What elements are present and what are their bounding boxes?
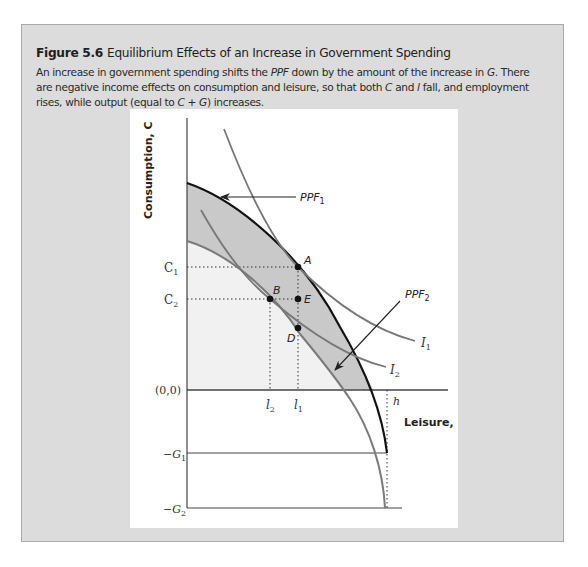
ppf1-label: PPF1 — [300, 191, 325, 206]
neg-g1-label: −G1 — [163, 448, 186, 463]
h-label: h — [393, 395, 400, 408]
figure-number: Figure 5.6 — [36, 46, 103, 60]
caption-part: and — [392, 81, 417, 93]
c1-label: C1 — [164, 261, 178, 277]
point-b-label: B — [273, 284, 281, 297]
chart: A B E D Consumption, C Leisure, l C1 C2 … — [130, 109, 458, 528]
caption-part: PPF — [271, 66, 289, 78]
i1-label: I1 — [420, 336, 431, 352]
figure-caption: An increase in government spending shift… — [36, 65, 546, 110]
point-e-label: E — [304, 293, 311, 306]
caption-part: ) increases. — [207, 96, 264, 108]
caption-part: An increase in government spending shift… — [36, 66, 271, 78]
point-a-label: A — [303, 254, 312, 267]
caption-part: G — [487, 66, 495, 78]
figure-card: Figure 5.6Equilibrium Effects of an Incr… — [21, 24, 564, 542]
figure-title: Figure 5.6Equilibrium Effects of an Incr… — [36, 46, 451, 60]
caption-part: C + G — [177, 96, 206, 108]
point-e-marker — [295, 296, 302, 303]
l1-label: l1 — [294, 398, 303, 414]
y-axis-title: Consumption, C — [142, 121, 155, 219]
origin-label: (0,0) — [155, 384, 181, 397]
point-a-marker — [295, 264, 302, 271]
point-d-label: D — [287, 332, 295, 345]
x-axis-title: Leisure, l — [404, 416, 458, 429]
point-d-marker — [295, 325, 302, 332]
i2-label: I2 — [389, 363, 400, 379]
l2-label: l2 — [266, 398, 275, 414]
neg-g2-label: −G2 — [163, 503, 186, 518]
c2-label: C2 — [164, 293, 178, 309]
caption-part: down by the amount of the increase in — [289, 66, 487, 78]
chart-panel: A B E D Consumption, C Leisure, l C1 C2 … — [130, 109, 458, 528]
ppf2-label: PPF2 — [405, 288, 430, 303]
figure-title-text: Equilibrium Effects of an Increase in Go… — [107, 46, 451, 60]
